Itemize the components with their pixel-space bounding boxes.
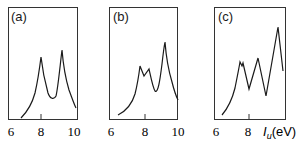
panel-c-tick-label-8: 8: [245, 124, 252, 139]
panel-b-tick-label-10: 10: [172, 124, 185, 139]
x-axis-label-unit: (eV): [272, 124, 297, 139]
panel-c-label: (c): [218, 9, 233, 24]
panel-b-tick-label-8: 8: [142, 124, 149, 139]
panel-a-label: (a): [11, 9, 27, 24]
panel-b-label: (b): [113, 9, 129, 24]
panel-a-curve: [21, 50, 76, 118]
spectra-figure: (a) 6 8 10 (b) 6 8 10 (c) 6 8 Iu(eV): [0, 0, 299, 144]
panel-a-tick-label-8: 8: [38, 124, 45, 139]
panel-b: (b) 6 8 10: [108, 8, 185, 140]
x-axis-label: Iu(eV): [263, 124, 296, 141]
panel-c-frame: [215, 8, 286, 120]
panel-b-tick-label-6: 6: [108, 124, 115, 139]
panel-c: (c) 6 8 Iu(eV): [213, 8, 296, 142]
panel-a-frame: [9, 8, 78, 120]
panel-b-curve: [118, 42, 178, 115]
panel-c-tick-label-6: 6: [213, 124, 220, 139]
panel-a-tick-label-6: 6: [8, 124, 15, 139]
panel-c-curve: [222, 27, 283, 115]
panel-a: (a) 6 8 10: [8, 8, 81, 140]
panel-a-tick-label-10: 10: [68, 124, 81, 139]
